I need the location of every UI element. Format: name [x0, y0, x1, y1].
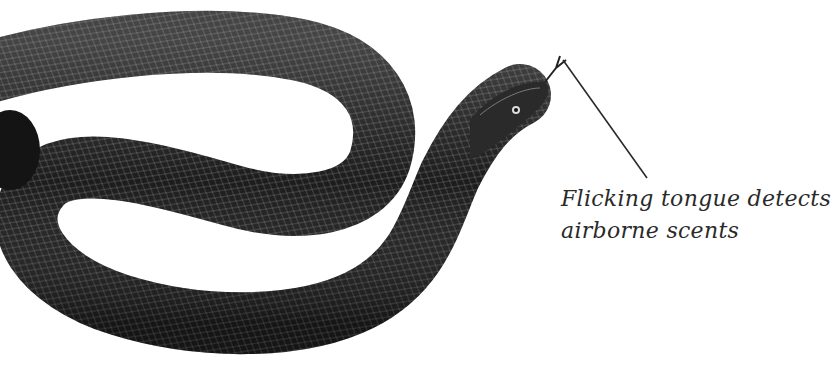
annotation-line-2: airborne scents: [561, 215, 831, 247]
annotation-caption: Flicking tongue detects airborne scents: [561, 183, 831, 247]
snake-body: [0, 42, 520, 323]
tongue: [545, 56, 566, 82]
annotation-line-1: Flicking tongue detects: [561, 183, 831, 215]
leader-line: [563, 60, 647, 178]
